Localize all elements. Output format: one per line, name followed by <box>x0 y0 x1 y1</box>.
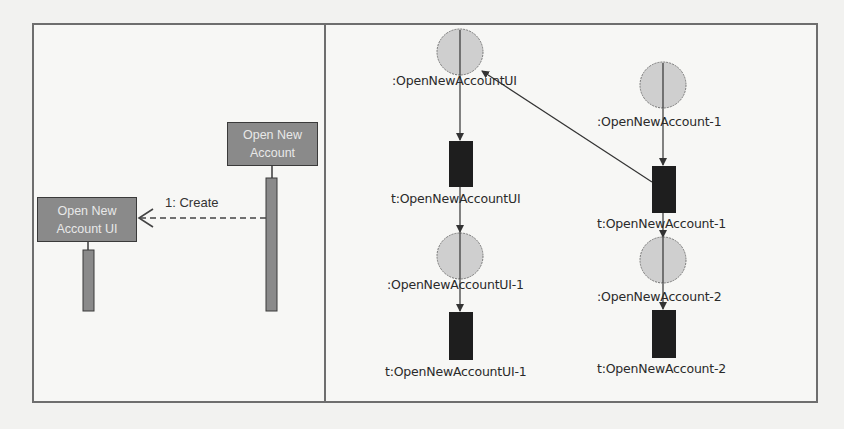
transition-open-new-account-2[interactable] <box>652 310 676 358</box>
create-message-arrow[interactable] <box>139 209 266 227</box>
transition-open-new-account-1[interactable] <box>652 166 676 213</box>
place-label: :OpenNewAccountUI <box>392 73 517 88</box>
lifeline-open-new-account <box>266 166 277 311</box>
transition-label: t:OpenNewAccount-1 <box>597 216 726 231</box>
lifeline-open-new-account-ui <box>83 242 94 311</box>
place-label: :OpenNewAccount-2 <box>597 289 721 304</box>
transition-label: t:OpenNewAccountUI-1 <box>385 364 527 379</box>
place-label: :OpenNewAccount-1 <box>597 114 721 129</box>
transition-label: t:OpenNewAccountUI <box>391 191 520 206</box>
transition-label: t:OpenNewAccount-2 <box>597 361 726 376</box>
transition-open-new-account-ui-1[interactable] <box>449 312 473 360</box>
place-label: :OpenNewAccountUI-1 <box>387 277 524 292</box>
transition-open-new-account-ui[interactable] <box>449 141 473 187</box>
